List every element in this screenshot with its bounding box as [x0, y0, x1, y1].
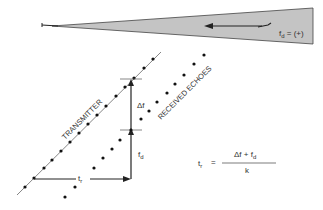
formula-equals: =: [211, 158, 216, 167]
formula-lhs: tr: [198, 159, 202, 169]
received-echoes-label: RECEIVED ECHOES: [156, 64, 213, 121]
formula-numerator: Δf + fd: [234, 150, 256, 160]
tr-arrow: tr: [34, 172, 131, 184]
beam-wedge: fd = (+): [42, 8, 313, 44]
doppler-diagram: fd = (+) TRANSMITTER RECEIVED ECHOES: [0, 0, 323, 210]
fd-label: fd: [138, 150, 144, 160]
vertical-arrows: [120, 79, 142, 179]
transmitter-dots: [23, 57, 154, 188]
formula: tr = Δf + fd k: [198, 150, 276, 175]
transmitter-label: TRANSMITTER: [60, 97, 104, 141]
formula-denominator: k: [245, 166, 250, 175]
delta-f-label: Δf: [137, 101, 145, 110]
